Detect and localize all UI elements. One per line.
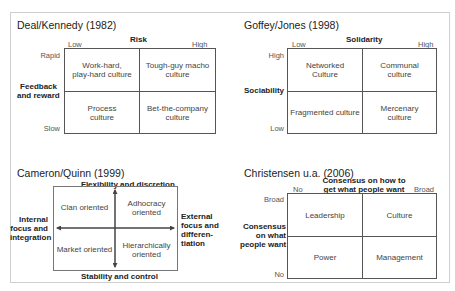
cell-fragmented: Fragmented culture [288,92,362,133]
y-axis-bottom: No [250,270,284,279]
quadrant-grid: NetworkedCulture Communalculture Fragmen… [287,48,437,134]
cell-networked: NetworkedCulture [288,49,362,91]
quadrant-grid: Leadership Culture Power Management [287,193,437,279]
x-axis-label: Solidarity [346,35,382,44]
y-axis-bottom: Low [254,124,284,133]
cell-mercenary: Mercenaryculture [363,92,436,133]
double-arrows-icon [53,186,178,271]
y-axis-label: Consensus on what people want [240,222,286,249]
bottom-label: Stability and control [81,272,158,281]
cell-process: Processculture [65,92,139,133]
cell-management: Management [363,237,436,278]
x-axis-label: Consensus on how to get what people want [314,176,414,194]
y-axis-label: Feedback and reward [17,82,57,100]
left-label: Internal focus and integration [10,215,48,242]
cell-tough-guy: Tough-guy machoculture [140,49,215,91]
y-axis-bottom: Slow [30,124,60,133]
panel-title: Deal/Kennedy (1982) [17,19,116,31]
right-label: External focus and differen- tiation [181,212,219,248]
y-axis-label: Sociability [244,86,284,95]
cell-leadership: Leadership [288,194,362,236]
x-axis-label: Risk [130,35,147,44]
cell-bet-the-company: Bet-the-companyculture [140,92,215,133]
y-axis-top: Rapid [30,51,60,60]
panel-title: Cameron/Quinn (1999) [17,167,124,179]
cell-work-hard: Work-hard,play-hard culture [65,49,139,91]
cell-communal: Communalculture [363,49,436,91]
cell-culture: Culture [363,194,436,236]
quadrant-grid: Work-hard,play-hard culture Tough-guy ma… [64,48,216,134]
y-axis-top: Broad [250,195,284,204]
y-axis-top: High [254,51,284,60]
cell-power: Power [288,237,362,278]
panel-title: Goffey/Jones (1998) [244,19,339,31]
